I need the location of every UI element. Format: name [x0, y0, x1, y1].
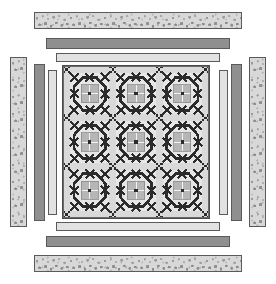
- cornerstone-patch: [160, 167, 162, 169]
- sashing-cornerstone: [156, 114, 163, 121]
- pieced-circle-block: [116, 121, 155, 162]
- cornerstone-patch: [112, 117, 114, 119]
- cornerstone-patch: [109, 114, 111, 116]
- cornerstone-patch: [156, 114, 158, 116]
- cornerstone-patch: [65, 68, 67, 70]
- border-strip-left-speckled: [10, 57, 27, 227]
- sashing-cornerstone: [109, 163, 116, 170]
- cornerstone-patch: [204, 117, 206, 119]
- cornerstone-patch: [114, 167, 116, 169]
- cornerstone-patch: [65, 165, 67, 167]
- cornerstone-patch: [65, 117, 67, 119]
- sashing-cornerstone: [156, 211, 163, 218]
- border-strip-right-speckled: [249, 57, 266, 227]
- border-strip-top-dark: [46, 38, 230, 49]
- cornerstone-patch: [114, 71, 116, 73]
- pieced-circle-block: [163, 170, 202, 211]
- border-strip-top-light: [56, 53, 220, 62]
- sashing-cornerstone: [109, 211, 116, 218]
- cornerstone-patch: [160, 71, 162, 73]
- block-center-dot: [134, 92, 137, 95]
- sashing-cornerstone: [109, 66, 116, 73]
- quilt-layout-diagram: [0, 0, 276, 284]
- cornerstone-patch: [109, 163, 111, 165]
- cornerstone-patch: [68, 163, 70, 165]
- cornerstone-patch: [68, 71, 70, 73]
- block-center-dot: [134, 140, 137, 143]
- cornerstone-patch: [156, 163, 158, 165]
- cornerstone-patch: [112, 165, 114, 167]
- quilt-center-svg: [63, 66, 209, 218]
- sashing-cornerstone: [63, 163, 70, 170]
- cornerstone-patch: [202, 211, 204, 213]
- cornerstone-patch: [202, 71, 204, 73]
- cornerstone-patch: [68, 114, 70, 116]
- cornerstone-patch: [160, 211, 162, 213]
- block-center-dot: [88, 92, 91, 95]
- border-strip-bottom-dark: [46, 236, 230, 247]
- cornerstone-patch: [65, 213, 67, 215]
- sashing-cornerstone: [63, 114, 70, 121]
- sashing-cornerstone: [202, 114, 209, 121]
- pieced-circle-block: [163, 73, 202, 114]
- sashing-cornerstone: [202, 211, 209, 218]
- pieced-circle-block: [116, 73, 155, 114]
- cornerstone-patch: [158, 213, 160, 215]
- sashing-cornerstone: [63, 66, 70, 73]
- cornerstone-patch: [109, 119, 111, 121]
- sashing-cornerstone: [156, 163, 163, 170]
- cornerstone-patch: [114, 114, 116, 116]
- pieced-circle-block: [163, 121, 202, 162]
- cornerstone-patch: [202, 114, 204, 116]
- cornerstone-patch: [109, 211, 111, 213]
- border-strip-right-dark: [231, 64, 242, 221]
- cornerstone-patch: [202, 167, 204, 169]
- cornerstone-patch: [109, 71, 111, 73]
- block-center-dot: [88, 140, 91, 143]
- cornerstone-patch: [156, 71, 158, 73]
- cornerstone-patch: [68, 211, 70, 213]
- border-strip-left-dark: [34, 64, 45, 221]
- cornerstone-patch: [156, 119, 158, 121]
- block-center-dot: [88, 189, 91, 192]
- cornerstone-patch: [158, 165, 160, 167]
- border-strip-bottom-speckled: [34, 255, 242, 272]
- cornerstone-patch: [204, 68, 206, 70]
- blocks-layer: [70, 73, 202, 211]
- block-center-dot: [181, 189, 184, 192]
- border-strip-left-light: [48, 70, 57, 215]
- pieced-circle-block: [70, 121, 109, 162]
- block-center-dot: [181, 92, 184, 95]
- cornerstone-patch: [68, 167, 70, 169]
- sashing-cornerstone: [156, 66, 163, 73]
- cornerstone-patch: [68, 119, 70, 121]
- cornerstone-patch: [112, 213, 114, 215]
- border-strip-bottom-light: [56, 222, 220, 231]
- pieced-circle-block: [70, 73, 109, 114]
- cornerstone-patch: [114, 119, 116, 121]
- cornerstone-patch: [158, 117, 160, 119]
- cornerstone-patch: [114, 211, 116, 213]
- cornerstone-patch: [109, 167, 111, 169]
- pieced-circle-block: [70, 170, 109, 211]
- border-strip-top-speckled: [34, 12, 242, 29]
- cornerstone-patch: [112, 68, 114, 70]
- block-center-dot: [134, 189, 137, 192]
- cornerstone-patch: [160, 163, 162, 165]
- pieced-circle-block: [116, 170, 155, 211]
- sashing-cornerstone: [109, 114, 116, 121]
- cornerstone-patch: [160, 114, 162, 116]
- cornerstone-patch: [156, 211, 158, 213]
- sashing-cornerstone: [63, 211, 70, 218]
- sashing-cornerstone: [202, 66, 209, 73]
- sashing-cornerstone: [202, 163, 209, 170]
- cornerstone-patch: [202, 119, 204, 121]
- cornerstone-patch: [204, 165, 206, 167]
- quilt-center-panel: [62, 65, 210, 219]
- cornerstone-patch: [114, 163, 116, 165]
- cornerstone-patch: [202, 163, 204, 165]
- block-center-dot: [181, 140, 184, 143]
- cornerstone-patch: [156, 167, 158, 169]
- cornerstone-patch: [160, 119, 162, 121]
- border-strip-right-light: [219, 70, 228, 215]
